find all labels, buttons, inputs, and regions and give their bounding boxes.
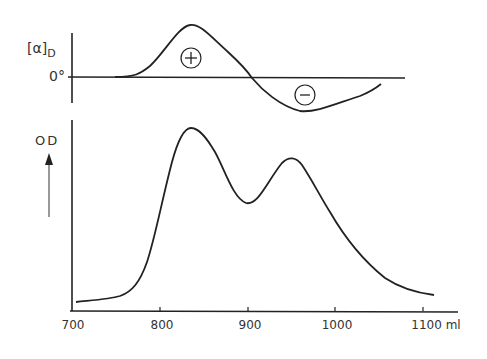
ord-axis-label: [α]D (27, 40, 56, 60)
x-tick-label-800: 800 (151, 318, 174, 332)
chart-canvas (0, 0, 487, 359)
x-tick-label-1000: 1000 (322, 318, 353, 332)
x-tick-label-900: 900 (239, 318, 262, 332)
ord-axis-subscript: D (47, 47, 55, 60)
x-tick-label-700: 700 (62, 318, 85, 332)
zero-label: 0° (49, 68, 65, 84)
od-curve (76, 128, 434, 302)
x-axis (70, 311, 458, 312)
ord-curve (115, 25, 381, 111)
x-tick-label-1100: 1100 ml (411, 318, 460, 332)
od-axis-label: OD (35, 133, 59, 148)
up-arrow-icon (45, 153, 53, 165)
